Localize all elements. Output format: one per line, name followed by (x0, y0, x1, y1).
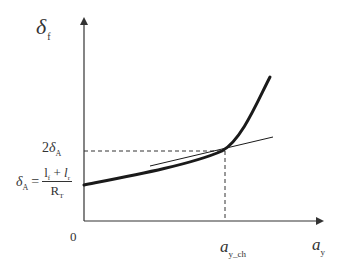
numerator-plus: + (50, 165, 64, 180)
formula-denominator: RT (51, 182, 64, 198)
char-accel-subscript: y_ch (229, 249, 247, 259)
diagram-canvas: δf 2δA δA = lf + lr RT 0 ay_ch ay (0, 0, 343, 264)
x-axis-subscript: y (321, 247, 326, 257)
coefficient: 2 (42, 140, 49, 155)
denominator-subscript: T (59, 192, 63, 200)
delta-symbol: δ (49, 140, 56, 155)
two-delta-a-label: 2δA (42, 141, 61, 155)
char-accel-symbol: a (220, 237, 229, 256)
origin-label: 0 (70, 230, 77, 243)
delta-subscript: A (56, 149, 62, 158)
x-axis-symbol: a (312, 235, 321, 254)
characteristic-accel-label: ay_ch (220, 238, 246, 255)
formula-equals: = (31, 174, 39, 190)
y-axis-symbol: δ (36, 14, 46, 39)
numerator-l2-sub: r (68, 174, 70, 182)
formula-numerator: lf + lr (42, 166, 72, 182)
formula-lhs-subscript: A (23, 183, 29, 192)
denominator-symbol: R (51, 183, 60, 198)
formula-lhs-symbol: δ (16, 174, 23, 189)
y-axis-subscript: f (47, 31, 50, 42)
formula-fraction: lf + lr RT (42, 166, 72, 197)
y-axis-label: δf (36, 16, 50, 38)
ackermann-formula: δA = lf + lr RT (16, 166, 72, 197)
numerator-l1-sub: f (48, 174, 50, 182)
nonlinear-curve (84, 77, 270, 185)
x-axis-label: ay (312, 236, 325, 253)
formula-lhs: δA (16, 174, 28, 190)
plot-area (0, 0, 343, 264)
